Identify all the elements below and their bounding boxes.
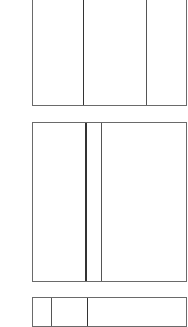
panel-top — [32, 0, 187, 106]
vertical-divider — [83, 0, 84, 105]
vertical-divider — [101, 123, 102, 281]
vertical-divider — [85, 123, 87, 281]
vertical-divider — [51, 298, 52, 326]
panel-middle — [32, 122, 187, 282]
panel-bottom — [32, 297, 187, 327]
vertical-divider — [87, 298, 88, 326]
vertical-divider — [146, 0, 147, 105]
